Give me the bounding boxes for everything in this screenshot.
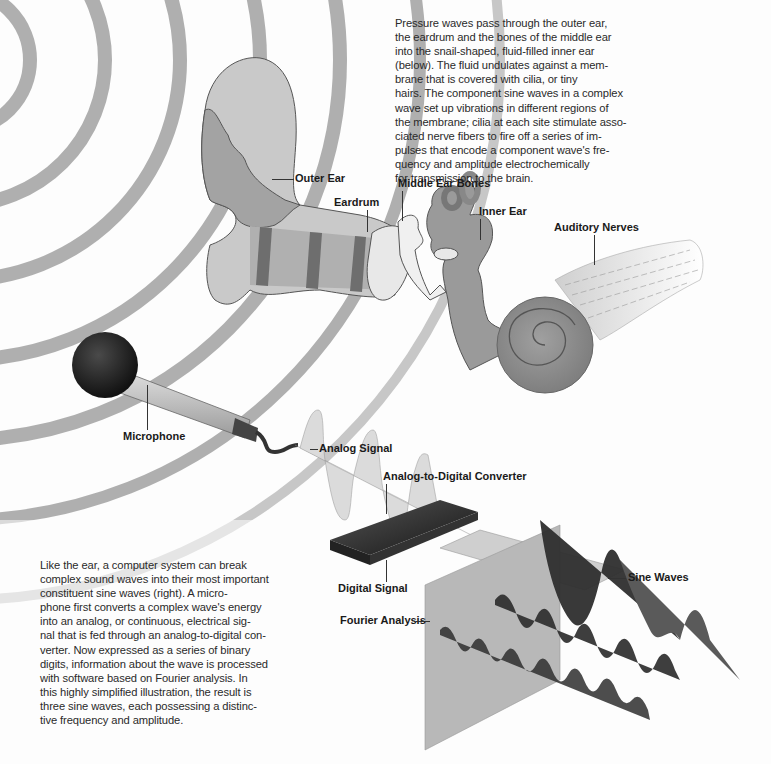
auditory-nerves-leader <box>594 235 595 265</box>
caption-line: phone first converts a complex wave's en… <box>40 600 340 614</box>
caption-line: with software based on Fourier analysis.… <box>40 671 340 685</box>
sine-waves-leader <box>608 578 626 579</box>
illustration-page: Pressure waves pass through the outer ea… <box>0 0 771 764</box>
caption-line: (below). The fluid undulates against a m… <box>395 58 695 72</box>
label-analog-signal: Analog Signal <box>319 442 392 454</box>
caption-line: wave set up vibrations in different regi… <box>395 101 695 115</box>
caption-line: this highly simplified illustration, the… <box>40 685 340 699</box>
label-middle-ear-bones: Middle Ear Bones <box>398 177 490 189</box>
caption-line: hairs. The component sine waves in a com… <box>395 86 695 100</box>
fourier-analysis-leader <box>416 621 430 622</box>
label-outer-ear: Outer Ear <box>295 172 345 184</box>
caption-line: quency and amplitude electrochemically <box>395 157 695 171</box>
caption-line: three sine waves, each possessing a dist… <box>40 699 340 713</box>
label-fourier-analysis: Fourier Analysis <box>340 614 426 626</box>
caption-line: nal that is fed through an analog-to-dig… <box>40 628 340 642</box>
adc-leader <box>386 484 387 514</box>
caption-line: the membrane; cilia at each site stimula… <box>395 115 695 129</box>
label-sine-waves: Sine Waves <box>628 571 689 583</box>
digital-signal-leader <box>386 560 387 582</box>
label-digital-signal: Digital Signal <box>338 582 408 594</box>
caption-line: the eardrum and the bones of the middle … <box>395 30 695 44</box>
caption-line: into the snail-shaped, fluid-filled inne… <box>395 44 695 58</box>
caption-line: brane that is covered with cilia, or tin… <box>395 72 695 86</box>
inner-ear-leader <box>480 219 481 240</box>
label-adc: Analog-to-Digital Converter <box>383 470 527 482</box>
caption-line: constituent sine waves (right). A micro- <box>40 586 340 600</box>
caption-line: verter. Now expressed as a series of bin… <box>40 643 340 657</box>
outer-ear-leader <box>272 179 294 180</box>
top-caption: Pressure waves pass through the outer ea… <box>395 16 695 185</box>
caption-line: Like the ear, a computer system can brea… <box>40 558 340 572</box>
caption-line: digits, information about the wave is pr… <box>40 657 340 671</box>
caption-line: complex sound waves into their most impo… <box>40 572 340 586</box>
caption-line: Pressure waves pass through the outer ea… <box>395 16 695 30</box>
analog-signal-leader <box>310 449 318 450</box>
middle-ear-bones-leader <box>402 191 403 221</box>
caption-line: ciated nerve fibers to fire off a series… <box>395 129 695 143</box>
eardrum-leader <box>367 210 368 232</box>
caption-line: pulses that encode a component wave's fr… <box>395 143 695 157</box>
bottom-caption: Like the ear, a computer system can brea… <box>40 558 340 727</box>
caption-line: tive frequency and amplitude. <box>40 713 340 727</box>
microphone-leader <box>147 385 148 430</box>
label-auditory-nerves: Auditory Nerves <box>554 221 639 233</box>
cochlea <box>497 297 593 393</box>
label-inner-ear: Inner Ear <box>479 205 527 217</box>
label-microphone: Microphone <box>123 430 185 442</box>
label-eardrum: Eardrum <box>334 196 379 208</box>
caption-line: into an analog, or continuous, electrica… <box>40 614 340 628</box>
